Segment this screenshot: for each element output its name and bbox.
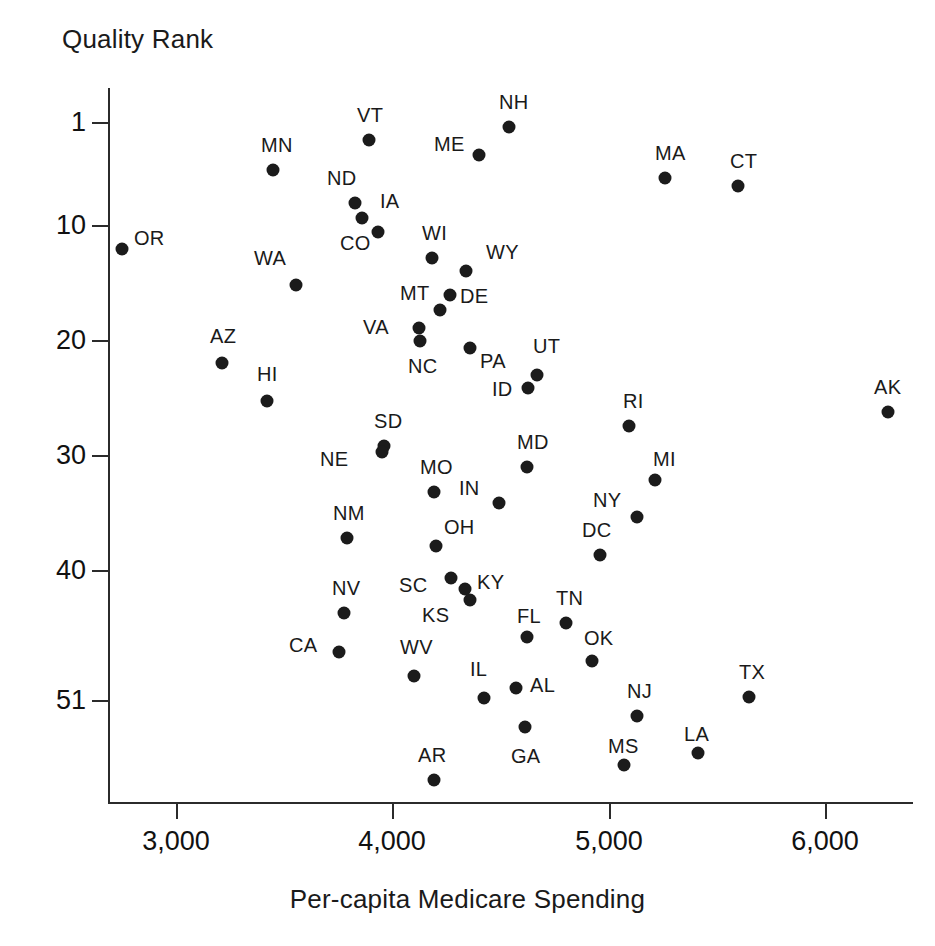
data-point: [445, 572, 458, 585]
data-point: [363, 134, 376, 147]
data-point: [503, 121, 516, 134]
data-point: [413, 322, 426, 335]
data-point-label: UT: [533, 335, 560, 358]
data-point-label: SD: [374, 410, 402, 433]
y-tick-label: 51: [36, 685, 86, 716]
data-point-label: CT: [730, 150, 757, 173]
data-point: [349, 197, 362, 210]
y-tick-mark: [92, 700, 108, 702]
y-tick-label: 20: [36, 325, 86, 356]
x-tick-label: 4,000: [358, 826, 426, 857]
y-tick-mark: [92, 122, 108, 124]
data-point-label: MA: [655, 142, 686, 165]
data-point: [430, 540, 443, 553]
data-point: [376, 446, 389, 459]
data-point-label: OR: [134, 227, 165, 250]
data-point-label: NE: [320, 448, 348, 471]
data-point: [372, 226, 385, 239]
data-point: [460, 265, 473, 278]
data-point: [560, 617, 573, 630]
data-point-label: WV: [400, 636, 433, 659]
data-point-label: MS: [608, 735, 639, 758]
data-point: [444, 289, 457, 302]
data-point-label: MD: [517, 431, 549, 454]
data-point-label: WI: [422, 222, 447, 245]
data-point-label: MN: [261, 134, 293, 157]
data-point: [333, 646, 346, 659]
data-point: [659, 172, 672, 185]
data-point-label: ME: [434, 133, 465, 156]
data-point-label: NJ: [627, 680, 652, 703]
data-point: [338, 607, 351, 620]
data-point-label: NY: [593, 489, 621, 512]
data-point-label: HI: [257, 363, 278, 386]
data-point-label: CA: [289, 634, 317, 657]
data-point-label: DE: [460, 285, 488, 308]
data-point-label: PA: [480, 350, 506, 373]
data-point: [434, 304, 447, 317]
data-point-label: RI: [623, 390, 644, 413]
data-point: [426, 252, 439, 265]
data-point-label: CO: [340, 232, 371, 255]
x-tick-label: 6,000: [791, 826, 859, 857]
data-point-label: FL: [517, 605, 541, 628]
y-tick-label: 40: [36, 555, 86, 586]
y-axis-title: Quality Rank: [62, 24, 213, 55]
data-point: [478, 692, 491, 705]
data-point-label: AK: [874, 376, 901, 399]
data-point-label: MI: [653, 448, 676, 471]
data-point-label: NV: [332, 577, 360, 600]
data-point: [290, 279, 303, 292]
data-point-label: OH: [444, 516, 475, 539]
data-point-label: NM: [333, 502, 365, 525]
data-point-label: NC: [408, 355, 438, 378]
data-point-label: SC: [399, 574, 427, 597]
data-point-label: KY: [477, 571, 504, 594]
data-point: [692, 747, 705, 760]
x-axis-line: [108, 802, 913, 804]
data-point: [408, 670, 421, 683]
data-point: [522, 382, 535, 395]
data-point: [261, 395, 274, 408]
data-point: [341, 532, 354, 545]
data-point-label: WA: [254, 247, 286, 270]
data-point-label: ID: [492, 378, 513, 401]
data-point: [510, 682, 523, 695]
y-tick-label: 10: [36, 210, 86, 241]
data-point-label: IN: [459, 477, 480, 500]
y-axis-line: [108, 88, 110, 804]
data-point: [519, 721, 532, 734]
data-point-label: AL: [530, 674, 555, 697]
data-point: [414, 335, 427, 348]
data-point-label: AR: [418, 744, 446, 767]
data-point-label: MO: [420, 456, 453, 479]
y-tick-mark: [92, 340, 108, 342]
data-point: [216, 357, 229, 370]
y-tick-mark: [92, 455, 108, 457]
x-tick-mark: [825, 804, 827, 819]
x-tick-mark: [609, 804, 611, 819]
x-axis-title: Per-capita Medicare Spending: [0, 884, 935, 915]
data-point-label: IA: [380, 190, 400, 213]
data-point: [631, 710, 644, 723]
data-point: [116, 243, 129, 256]
data-point: [464, 342, 477, 355]
data-point: [618, 759, 631, 772]
data-point-label: ND: [327, 167, 357, 190]
data-point-label: OK: [584, 627, 614, 650]
data-point: [464, 594, 477, 607]
data-point: [649, 474, 662, 487]
data-point: [493, 497, 506, 510]
data-point: [631, 511, 644, 524]
data-point-label: VA: [363, 316, 389, 339]
data-point: [356, 212, 369, 225]
data-point-label: GA: [511, 745, 541, 768]
y-tick-mark: [92, 570, 108, 572]
data-point: [586, 655, 599, 668]
data-point: [732, 180, 745, 193]
data-point-label: TX: [739, 661, 765, 684]
data-point: [882, 406, 895, 419]
x-tick-mark: [176, 804, 178, 819]
data-point-label: VT: [357, 104, 383, 127]
scatter-plot: Quality Rank 11020304051 3,0004,0005,000…: [0, 0, 935, 946]
